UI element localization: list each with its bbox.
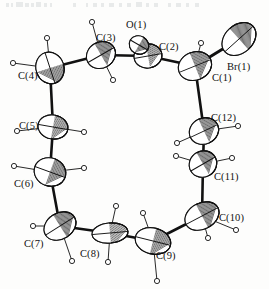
atom-label-C4: C(4) [18,70,38,82]
hydrogen-H6a [11,163,16,168]
atom-label-C11: C(11) [214,171,239,183]
atom-label-O1: O(1) [126,19,147,31]
hydrogen-H3b [110,77,115,82]
atom-label-C6: C(6) [14,178,34,190]
hydrogen-H8a [113,203,118,208]
hydrogen-H10a [205,235,210,240]
hydrogen-H8b [105,259,110,264]
hydrogen-H9b [154,278,159,283]
atom-label-C5: C(5) [19,120,39,132]
ortep-structure-figure: C(1)C(2)O(1)C(3)C(4)C(5)C(6)C(7)C(8)C(9)… [0,0,269,289]
hydrogen-H11b [229,155,234,160]
hydrogen-H11a [173,153,178,158]
atom-label-C10: C(10) [219,212,244,224]
hydrogen-H1 [198,40,203,45]
hydrogen-H4b [10,60,15,65]
hydrogen-H5b [81,129,86,134]
atom-label-C2: C(2) [159,41,179,53]
atom-label-C3: C(3) [96,32,116,44]
hydrogen-H3a [89,19,94,24]
atom-label-C7: C(7) [24,238,44,250]
hydrogen-H4a [44,35,49,40]
atom-label-C1: C(1) [212,72,232,84]
hydrogen-H10b [233,227,238,232]
hydrogen-H7a [30,223,35,228]
hydrogen-H9a [140,210,145,215]
molecule-canvas: C(1)C(2)O(1)C(3)C(4)C(5)C(6)C(7)C(8)C(9)… [0,0,269,289]
hydrogen-H7b [69,258,74,263]
hydrogen-H6b [81,165,86,170]
atom-label-Br1: Br(1) [227,61,251,73]
hydrogen-H12a [174,140,179,145]
atom-label-C12: C(12) [211,112,236,124]
atom-label-C8: C(8) [80,248,100,260]
atom-label-C9: C(9) [156,250,176,262]
hydrogen-H12b [235,123,240,128]
